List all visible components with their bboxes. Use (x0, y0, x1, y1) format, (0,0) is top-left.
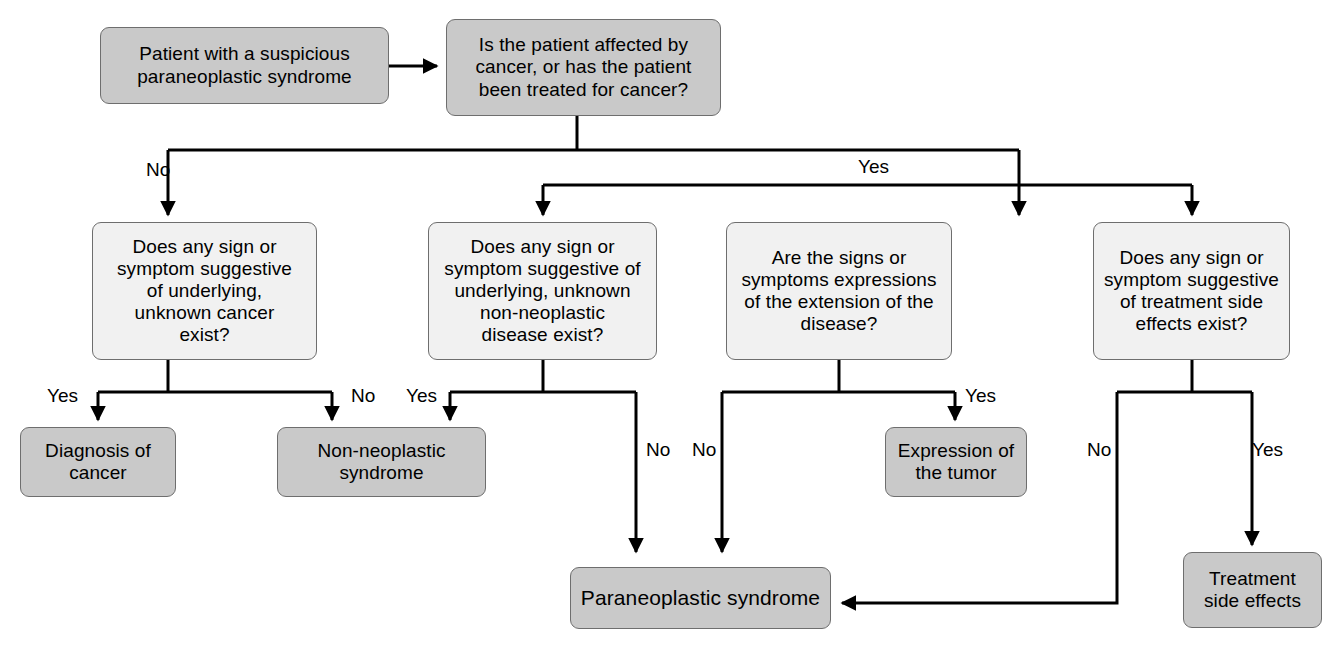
label-cancer-yes: Yes (858, 157, 889, 176)
label-unknown-no: No (351, 386, 375, 405)
label-sideeffects-no: No (1087, 440, 1111, 459)
label-extension-no: No (692, 440, 716, 459)
label-cancer-no: No (146, 160, 170, 179)
node-q-non-neoplastic: Does any sign or symptom suggestive of u… (428, 222, 657, 360)
label-nonneo-yes: Yes (406, 386, 437, 405)
label-unknown-yes: Yes (47, 386, 78, 405)
node-paraneoplastic-syndrome: Paraneoplastic syndrome (570, 567, 831, 629)
flowchart-canvas: Patient with a suspicious paraneoplastic… (0, 0, 1341, 656)
node-treatment-side-effects: Treatment side effects (1183, 552, 1322, 628)
node-non-neoplastic-syndrome: Non-neoplastic syndrome (277, 427, 486, 497)
label-sideeffects-yes: Yes (1252, 440, 1283, 459)
edge-sideeffects-no (842, 392, 1117, 603)
node-q-extension: Are the signs or symptoms expressions of… (726, 222, 952, 360)
label-nonneo-no: No (646, 440, 670, 459)
node-q-cancer: Is the patient affected by cancer, or ha… (446, 19, 721, 116)
label-extension-yes: Yes (965, 386, 996, 405)
node-diagnosis-cancer: Diagnosis of cancer (20, 427, 176, 497)
node-q-side-effects: Does any sign or symptom suggestive of t… (1093, 222, 1290, 360)
node-expression-tumor: Expression of the tumor (885, 427, 1027, 497)
node-q-unknown-cancer: Does any sign or symptom suggestive of u… (92, 222, 317, 360)
node-start: Patient with a suspicious paraneoplastic… (100, 27, 389, 104)
